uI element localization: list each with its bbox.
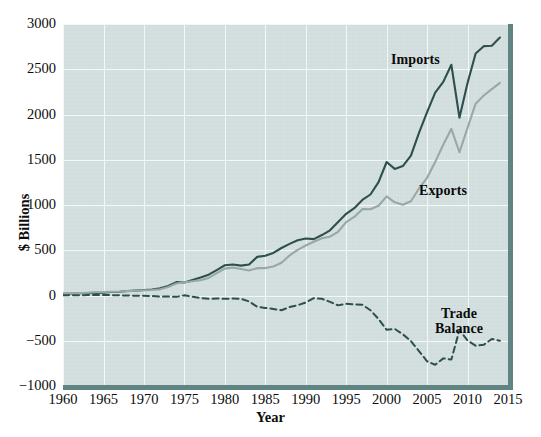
y-tick-label: 0 <box>0 287 56 304</box>
x-tick-label: 2015 <box>478 391 538 408</box>
y-tick-label: 2500 <box>0 60 56 77</box>
y-tick-label: −500 <box>0 332 56 349</box>
exports-series-label: Exports <box>419 183 467 198</box>
imports-series-label: Imports <box>391 52 440 67</box>
x-axis-title: Year <box>0 409 541 426</box>
plot-bottom-rule <box>63 385 513 390</box>
trade-balance-label-line-2: Balance <box>423 321 495 336</box>
trade-balance-label-line-1: Trade <box>423 306 495 321</box>
trade-balance-series-label: Trade Balance <box>423 306 495 336</box>
trade-chart-figure: 300025002000150010005000−500−1000 196019… <box>0 0 541 437</box>
plot-right-rule <box>508 24 513 390</box>
y-axis-title: $ Billions <box>16 173 33 273</box>
y-tick-label: 3000 <box>0 15 56 32</box>
y-tick-label: 2000 <box>0 106 56 123</box>
y-tick-label: 1500 <box>0 151 56 168</box>
